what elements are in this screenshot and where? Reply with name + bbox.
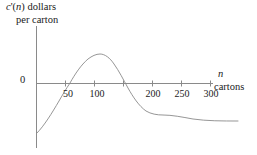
x-tick-label-200: 200 xyxy=(146,88,161,99)
x-tick-label-100: 100 xyxy=(90,88,105,99)
x-tick-label-50: 50 xyxy=(63,88,73,99)
x-axis-label-variable: n xyxy=(218,68,223,79)
figure-canvas: c'(n) dollars per carton n cartons 0 50 … xyxy=(0,0,257,155)
x-tick-label-300: 300 xyxy=(204,88,219,99)
x-axis-label-unit: cartons xyxy=(214,81,244,92)
origin-label: 0 xyxy=(20,74,25,85)
y-axis-label-line1: c'(n) dollars xyxy=(6,1,56,12)
x-tick-label-250: 250 xyxy=(175,88,190,99)
y-axis-label-line2: per carton xyxy=(16,14,58,25)
